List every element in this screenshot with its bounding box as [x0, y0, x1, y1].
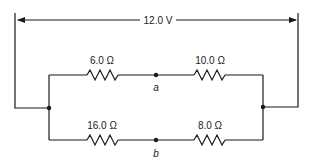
- resistor-label-bottom-left: 16.0 Ω: [87, 120, 117, 131]
- resistor-16-ohm: [87, 135, 118, 145]
- resistor-6-ohm: [87, 70, 118, 80]
- outer-wires: [15, 13, 298, 108]
- voltage-label: 12.0 V: [144, 15, 173, 26]
- node-a-label: a: [153, 82, 159, 93]
- node-a-dot: [154, 73, 158, 77]
- resistor-label-top-left: 6.0 Ω: [90, 55, 115, 66]
- circuit-diagram: 12.0 V 6.0 Ω 10.0 Ω 16.0 Ω 8.0 Ω a b: [0, 0, 312, 165]
- node-b-label: b: [153, 148, 159, 159]
- junction-right: [261, 105, 265, 109]
- resistor-label-top-right: 10.0 Ω: [195, 55, 225, 66]
- node-b-dot: [154, 138, 158, 142]
- resistor-8-ohm: [194, 135, 225, 145]
- resistor-10-ohm: [194, 70, 225, 80]
- junction-left: [47, 106, 51, 110]
- resistor-label-bottom-right: 8.0 Ω: [198, 120, 223, 131]
